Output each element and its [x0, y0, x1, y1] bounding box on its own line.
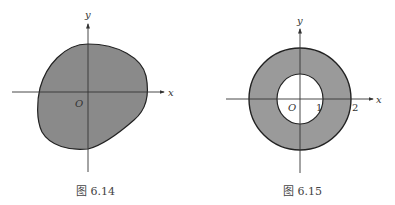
tick-label-2: 2 [352, 102, 358, 113]
region-blob [38, 44, 148, 149]
figure-6-15: y x O 1 2 图 6.15 [226, 15, 382, 198]
figures-canvas: y x O 图 6.14 y x O 1 2 图 6.15 [0, 0, 395, 205]
origin-label: O [75, 98, 83, 109]
figure-caption: 图 6.15 [283, 185, 322, 198]
y-axis-label: y [296, 15, 303, 26]
origin-label: O [288, 102, 296, 113]
x-axis-label: x [168, 87, 174, 98]
figure-6-14: y x O 图 6.14 [12, 9, 174, 198]
tick-label-1: 1 [316, 102, 322, 113]
figure-caption: 图 6.14 [76, 185, 115, 198]
x-axis-label: x [376, 94, 382, 105]
y-axis-label: y [84, 9, 91, 20]
